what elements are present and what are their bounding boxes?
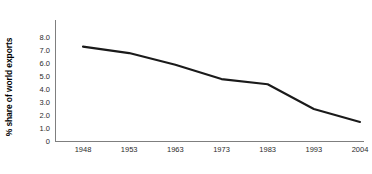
y-axis-tick-label: 2.0: [28, 112, 50, 120]
x-axis-tick-labels: 1948195319631973198319932004: [55, 146, 364, 160]
y-axis-tick-label: 8.0: [28, 34, 50, 42]
y-axis-tick-label: 0: [28, 138, 50, 146]
chart-plot-svg: [55, 18, 364, 142]
x-axis-tick-label: 1963: [167, 146, 184, 154]
plot-area: [55, 18, 364, 142]
x-axis-tick-label: 2004: [352, 146, 369, 154]
axis-lines: [55, 20, 364, 142]
y-axis-tick-labels: 01.02.03.04.05.06.07.08.0: [26, 0, 50, 174]
x-axis-tick-label: 1983: [259, 146, 276, 154]
y-axis-title: % share of world exports: [0, 0, 18, 174]
chart-container: % share of world exports 01.02.03.04.05.…: [0, 0, 372, 174]
y-axis-tick-label: 6.0: [28, 60, 50, 68]
x-axis-tick-label: 1948: [75, 146, 92, 154]
y-axis-tick-label: 7.0: [28, 47, 50, 55]
data-series-line: [83, 47, 360, 122]
y-axis-tick-label: 3.0: [28, 99, 50, 107]
y-axis-tick-label: 4.0: [28, 86, 50, 94]
y-axis-tick-label: 5.0: [28, 73, 50, 81]
y-axis-tick-label: 1.0: [28, 125, 50, 133]
x-axis-tick-label: 1973: [213, 146, 230, 154]
x-axis-tick-label: 1993: [305, 146, 322, 154]
x-axis-tick-label: 1953: [121, 146, 138, 154]
